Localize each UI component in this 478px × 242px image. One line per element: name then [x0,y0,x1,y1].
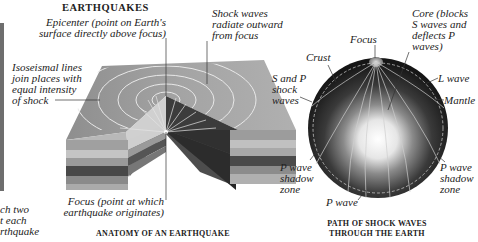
label-line: of shock [12,95,82,106]
label-p-wave: P wave [326,197,358,208]
label-line: waves) [412,41,468,52]
label-shock-waves: Shock waves radiate outward from focus [212,8,283,41]
label-crust: Crust [306,52,330,63]
label-p-shadow-left: P wave shadow zone [280,162,314,195]
label-line: earthquake originates) [54,207,164,218]
label-line: waves [272,95,306,106]
label-focus: Focus (point at which earthquake origina… [54,196,164,218]
label-p-shadow-right: P wave shadow zone [440,162,474,195]
label-line: surface directly above focus) [36,28,166,39]
label-line: zone [440,184,474,195]
label-isoseismal: Isoseismal lines join places with equal … [12,62,82,106]
caption-line: THROUGH THE EARTH [318,229,436,239]
anatomy-caption: ANATOMY OF AN EARTHQUAKE [96,229,230,238]
label-s-and-p: S and P shock waves [272,73,306,106]
label-core: Core (blocks S waves and deflects P wave… [412,8,468,52]
earth-globe [308,58,448,198]
label-epicenter: Epicenter (point on Earth's surface dire… [36,17,166,39]
label-l-wave: L wave [438,73,469,84]
label-line: zone [280,184,314,195]
caption-line: PATH OF SHOCK WAVES [318,219,436,229]
label-mantle: Mantle [444,95,475,106]
globe-caption: PATH OF SHOCK WAVES THROUGH THE EARTH [318,219,436,239]
label-line: from focus [212,30,283,41]
label-globe-focus: Focus [350,34,377,45]
